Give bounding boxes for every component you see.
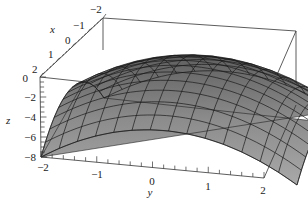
x-axis-tick-labels: −2 −1 0 1 2 [32,3,102,75]
z-tick-label: −2 [24,91,36,103]
x-axis-label: x [49,23,55,35]
surface-plot: −2 −1 0 1 2 x 0 −2 −4 −6 −8 z −2 −1 0 1 … [0,0,308,212]
x-tick-label: 0 [65,34,71,46]
z-tick-label: −8 [24,151,36,163]
surface [41,55,308,185]
z-axis-tick-labels: 0 −2 −4 −6 −8 [23,72,37,163]
y-tick-label: −2 [37,161,49,173]
y-tick-label: 1 [205,180,211,192]
y-axis-label: y [147,186,153,198]
z-tick-label: 0 [23,72,29,84]
y-tick-label: 2 [260,184,266,196]
z-axis-label: z [5,114,11,126]
z-tick-label: −4 [24,111,36,123]
z-tick-label: −6 [24,131,36,143]
x-tick-label: 2 [32,63,38,75]
y-tick-label: −1 [91,168,103,180]
x-tick-label: 1 [48,48,54,60]
x-tick-label: −2 [90,3,102,15]
y-axis-ticks [41,151,264,178]
x-tick-label: −1 [73,19,85,31]
